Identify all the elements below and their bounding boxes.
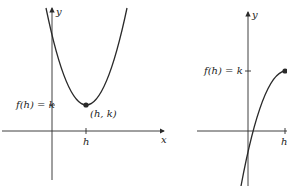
left-parabola-curve (46, 8, 127, 105)
left-graph: y x h f(h) = k (h, k) (2, 6, 167, 180)
right-y-axis-label: y (251, 9, 258, 20)
right-graph: y h f(h) = k (197, 9, 287, 186)
left-vertex-point (83, 102, 88, 107)
right-k-tick-label: f(h) = k (203, 65, 243, 76)
left-h-tick-label: h (83, 136, 89, 147)
right-h-tick-label: h (281, 136, 287, 147)
left-vertex-label: (h, k) (90, 108, 117, 119)
left-k-tick-label: f(h) = k (15, 99, 55, 110)
left-x-axis-label: x (161, 134, 167, 145)
right-endpoint (282, 68, 287, 73)
diagram-canvas: y x h f(h) = k (h, k) y h f(h) = k (0, 0, 287, 186)
left-y-axis-label: y (55, 6, 62, 17)
